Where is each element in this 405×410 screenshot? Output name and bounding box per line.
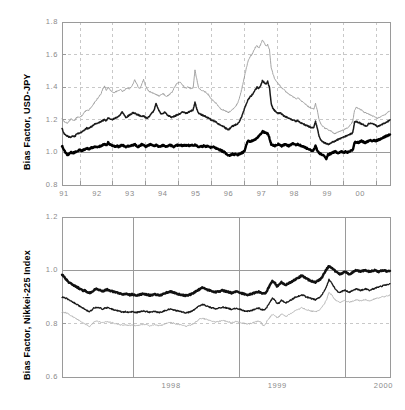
series-line-lower-band — [62, 131, 390, 159]
y-tick-label: 0.6 — [28, 372, 58, 381]
y-tick-label: 1.8 — [28, 17, 58, 26]
x-tick-label: 00 — [340, 189, 380, 198]
x-tick-label: 2000 — [363, 381, 403, 390]
y-tick-label: 1.2 — [28, 212, 58, 221]
x-tick-label: 1999 — [257, 381, 297, 390]
chart-panel-usd-jpy: Bias Factor, USD-JPY 0.81.01.21.41.61.89… — [0, 0, 405, 205]
y-tick-label: 0.8 — [28, 180, 58, 189]
y-tick-label: 1.6 — [28, 50, 58, 59]
y-tick-label: 0.8 — [28, 319, 58, 328]
plot-area-nikkei-225 — [0, 200, 405, 410]
plot-area-usd-jpy — [0, 0, 405, 205]
y-tick-label: 1.0 — [28, 147, 58, 156]
y-tick-label: 1.0 — [28, 265, 58, 274]
y-tick-label: 1.2 — [28, 115, 58, 124]
x-tick-label: 1998 — [151, 381, 191, 390]
chart-panel-nikkei-225: Bias Factor, Nikkei-225 Index 0.60.81.01… — [0, 200, 405, 410]
bias-factor-figure: Bias Factor, USD-JPY 0.81.01.21.41.61.89… — [0, 0, 405, 410]
y-tick-label: 1.4 — [28, 82, 58, 91]
series-line-mid-band — [62, 279, 390, 313]
series-line-mid-band — [62, 80, 390, 144]
